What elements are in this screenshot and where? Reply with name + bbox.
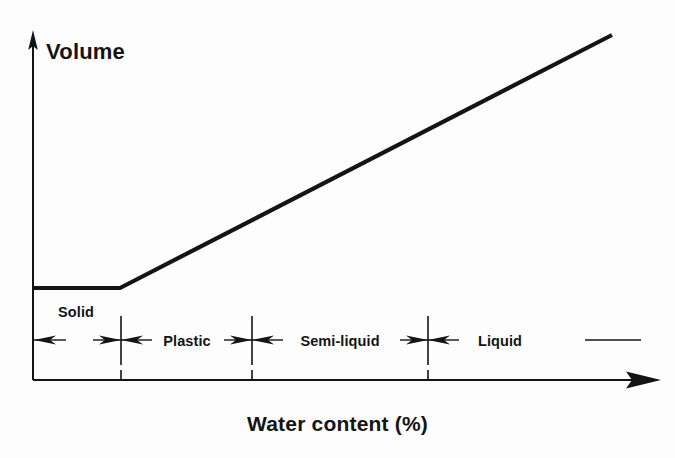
phase-label-liquid: Liquid: [478, 333, 522, 349]
diagram-canvas: [0, 0, 675, 458]
x-axis-title: Water content (%): [0, 412, 675, 436]
volume-curve-group: [33, 35, 612, 288]
phase-label-semi-liquid: Semi-liquid: [300, 333, 379, 349]
figure-root: Volume Water content (%) Solid Plastic S…: [0, 0, 675, 458]
y-axis-title: Volume: [46, 39, 125, 65]
phase-label-plastic: Plastic: [163, 333, 210, 349]
phase-label-solid: Solid: [58, 304, 94, 320]
volume-curve: [33, 35, 612, 288]
